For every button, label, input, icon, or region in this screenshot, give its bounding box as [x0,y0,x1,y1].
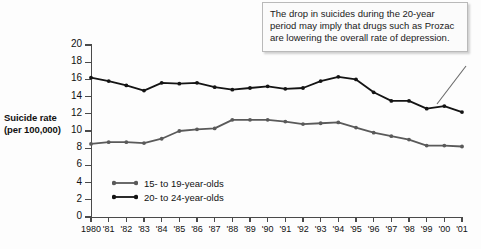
data-point [177,129,181,133]
data-point [460,145,464,149]
data-point [460,110,464,114]
data-point [160,137,164,141]
data-point [354,126,358,130]
suicide-rate-line-chart: Suicide rate (per 100,000) 0246810121416… [0,0,481,249]
legend-swatch [112,178,138,188]
series-old [89,75,464,114]
data-point [107,140,111,144]
data-point [283,120,287,124]
data-point [319,121,323,125]
data-point [266,118,270,122]
data-point [425,107,429,111]
data-point [407,138,411,142]
legend-label: 20- to 24-year-olds [144,192,224,203]
data-point [425,144,429,148]
chart-legend: 15- to 19-year-olds20- to 24-year-olds [112,176,224,204]
data-point [372,131,376,135]
data-point [195,81,199,85]
data-point [213,127,217,131]
callout-annotation: The drop in suicides during the 20-year … [262,2,468,52]
data-point [107,79,111,83]
data-point [372,90,376,94]
series-line [91,120,462,147]
legend-swatch [112,192,138,202]
data-point [354,78,358,82]
data-point [336,75,340,79]
data-point [336,121,340,125]
legend-item: 15- to 19-year-olds [112,176,224,190]
data-point [389,134,393,138]
series-line [91,77,462,112]
data-point [89,76,93,80]
data-point [301,86,305,90]
data-point [89,142,93,146]
data-point [160,81,164,85]
data-point [266,84,270,88]
data-point [442,144,446,148]
data-point [319,79,323,83]
data-point [442,104,446,108]
data-point [124,140,128,144]
data-point [195,127,199,131]
legend-label: 15- to 19-year-olds [144,178,224,189]
callout-text: The drop in suicides during the 20-year … [270,8,454,43]
data-point [248,118,252,122]
data-point [230,88,234,92]
data-point [177,82,181,86]
data-point [124,84,128,88]
data-point [389,99,393,103]
data-point [230,118,234,122]
legend-item: 20- to 24-year-olds [112,190,224,204]
data-point [142,89,146,93]
data-point [248,86,252,90]
data-point [142,141,146,145]
series-young [89,118,464,148]
data-point [283,87,287,91]
data-point [407,99,411,103]
data-point [301,122,305,126]
data-point [213,85,217,89]
